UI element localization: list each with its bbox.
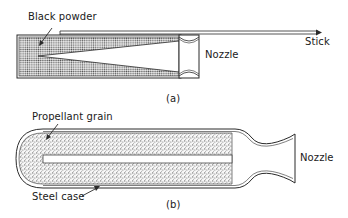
label-nozzle-a: Nozzle bbox=[205, 50, 239, 60]
label-propellant-grain: Propellant grain bbox=[32, 112, 113, 122]
figure-b-solid-rocket bbox=[16, 124, 295, 196]
label-steel-case: Steel case bbox=[32, 192, 85, 202]
caption-a: (a) bbox=[166, 94, 180, 104]
figure-a-skyrocket bbox=[17, 28, 322, 78]
label-black-powder: Black powder bbox=[28, 12, 97, 22]
rocket-diagrams bbox=[0, 0, 348, 218]
nozzle-a bbox=[179, 35, 199, 78]
caption-b: (b) bbox=[166, 200, 180, 210]
label-nozzle-b: Nozzle bbox=[300, 153, 334, 163]
central-slot bbox=[43, 155, 232, 163]
label-stick: Stick bbox=[305, 37, 330, 47]
